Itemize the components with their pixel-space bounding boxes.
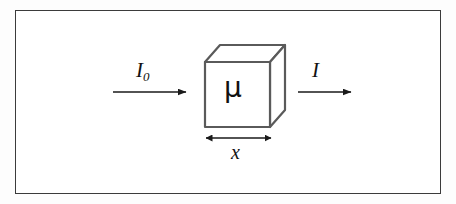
incident-intensity-subscript: 0 [143, 69, 150, 84]
transmitted-intensity-label: I [312, 60, 319, 81]
attenuation-coefficient-label: μ [224, 74, 242, 102]
incident-intensity-label: I0 [136, 60, 150, 83]
figure-canvas: I0 I μ x [0, 0, 456, 204]
thickness-label: x [231, 142, 240, 162]
incident-intensity-symbol: I [136, 58, 143, 82]
